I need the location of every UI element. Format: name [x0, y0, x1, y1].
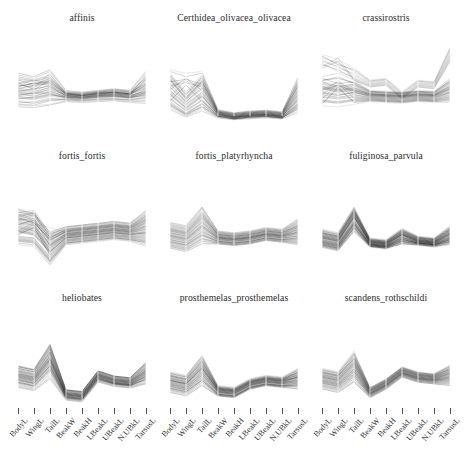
panel-title: fortis_fortis	[0, 150, 166, 162]
axis-label-row: BodyLWingLTailLBeakWBeakHLBeakLUBeakLN.U…	[170, 416, 298, 474]
axis-tick	[234, 408, 235, 414]
axis-tick	[186, 408, 187, 414]
axis-tick	[418, 408, 419, 414]
axis-tick	[98, 408, 99, 414]
plot-area-fortis-fortis	[10, 180, 154, 280]
axis-label-row: BodyLWingLTailLBeakWBeakHLBeakLUBeakLN.U…	[18, 416, 146, 474]
axis-tick	[130, 408, 131, 414]
panel-title: crassirostris	[302, 12, 470, 24]
axis-tick	[250, 408, 251, 414]
axis-tick	[298, 408, 299, 414]
axis-tick	[266, 408, 267, 414]
plot-area-fortis-platyrhyncha	[162, 180, 306, 280]
plot-area-affinis	[10, 36, 154, 136]
panel-title: scandens_rothschildi	[302, 292, 470, 304]
panel-title: fuliginosa_parvula	[302, 150, 470, 162]
axis-tick	[218, 408, 219, 414]
axis-tick	[202, 408, 203, 414]
axis-tick	[18, 408, 19, 414]
axis-tick	[402, 408, 403, 414]
axis-tick	[146, 408, 147, 414]
panel-title: fortis_platyrhyncha	[150, 150, 318, 162]
panel-title: heliobates	[0, 292, 166, 304]
axis-tick	[370, 408, 371, 414]
axis-tick	[50, 408, 51, 414]
panel-title: affinis	[0, 12, 166, 24]
panel-title: prosthemelas_prosthemelas	[150, 292, 318, 304]
axis-tick	[282, 408, 283, 414]
axis-tick	[114, 408, 115, 414]
axis-tick	[82, 408, 83, 414]
plot-area-crassirostris	[314, 36, 458, 136]
axis-tick	[338, 408, 339, 414]
panel-title: Certhidea_olivacea_olivacea	[150, 12, 318, 24]
axis-tick	[434, 408, 435, 414]
parallel-coordinates-figure: affinisCerthidea_olivacea_olivaceacrassi…	[0, 0, 471, 474]
axis-label-row: BodyLWingLTailLBeakWBeakHLBeakLUBeakLN.U…	[322, 416, 450, 474]
plot-area-certhidea-olivacea-olivacea	[162, 36, 306, 136]
axis-tick	[170, 408, 171, 414]
plot-area-fuliginosa-parvula	[314, 180, 458, 280]
axis-tick	[354, 408, 355, 414]
axis-tick	[450, 408, 451, 414]
axis-tick	[66, 408, 67, 414]
axis-tick	[386, 408, 387, 414]
axis-tick	[322, 408, 323, 414]
axis-tick	[34, 408, 35, 414]
